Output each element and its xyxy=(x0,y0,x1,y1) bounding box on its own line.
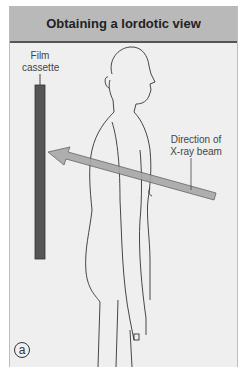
xray-beam-label-line1: Direction of xyxy=(164,134,228,146)
panel-letter-badge: a xyxy=(14,342,30,358)
film-cassette-label: Film cassette xyxy=(22,50,58,74)
xray-beam-label-line2: X-ray beam xyxy=(164,146,228,158)
film-cassette-label-line2: cassette xyxy=(22,62,58,74)
film-cassette-label-line1: Film xyxy=(22,50,58,62)
xray-beam-label: Direction of X-ray beam xyxy=(164,134,228,158)
film-cassette-icon xyxy=(35,74,45,259)
patient-figure-icon xyxy=(86,47,155,367)
